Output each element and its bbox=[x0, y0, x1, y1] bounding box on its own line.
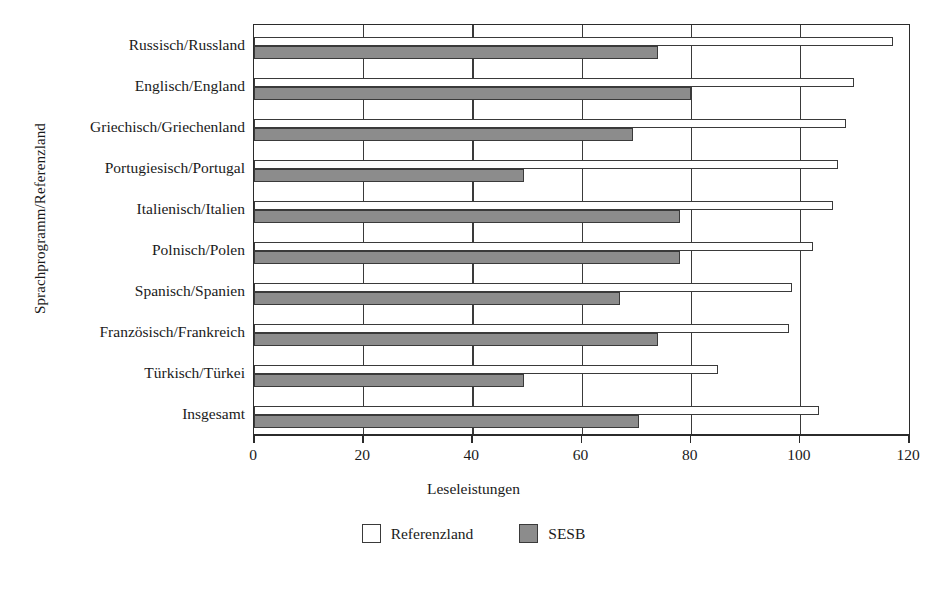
bar-sesb bbox=[254, 251, 680, 264]
chart-legend: ReferenzlandSESB bbox=[0, 524, 947, 543]
x-axis-tick-label: 100 bbox=[769, 446, 829, 464]
x-axis-tick-label: 0 bbox=[223, 446, 283, 464]
category-label: Türkisch/Türkei bbox=[30, 365, 245, 381]
legend-swatch-ref bbox=[362, 524, 381, 543]
x-axis-tick-label: 60 bbox=[551, 446, 611, 464]
legend-label: SESB bbox=[548, 525, 585, 543]
bar-referenzland bbox=[254, 160, 838, 169]
x-axis-tick bbox=[471, 434, 473, 443]
bar-referenzland bbox=[254, 365, 718, 374]
x-axis-tick bbox=[581, 434, 583, 443]
x-axis-tick bbox=[799, 434, 801, 443]
bar-referenzland bbox=[254, 406, 819, 415]
x-axis-tick-label: 120 bbox=[878, 446, 938, 464]
bar-sesb bbox=[254, 333, 658, 346]
x-axis-tick bbox=[908, 434, 910, 443]
bar-sesb bbox=[254, 169, 524, 182]
bar-sesb bbox=[254, 46, 658, 59]
legend-label: Referenzland bbox=[391, 525, 474, 543]
bar-referenzland bbox=[254, 119, 846, 128]
category-label: Polnisch/Polen bbox=[30, 242, 245, 258]
legend-item: SESB bbox=[519, 524, 585, 543]
category-label: Griechisch/Griechenland bbox=[30, 119, 245, 135]
bar-referenzland bbox=[254, 283, 792, 292]
bar-chart: Sprachprogramm/Referenzland Russisch/Rus… bbox=[0, 0, 947, 593]
bar-sesb bbox=[254, 87, 691, 100]
bar-referenzland bbox=[254, 242, 813, 251]
plot-area bbox=[253, 24, 910, 435]
bar-sesb bbox=[254, 128, 633, 141]
legend-swatch-sesb bbox=[519, 524, 538, 543]
category-label-list: Russisch/RusslandEnglisch/EnglandGriechi… bbox=[30, 24, 245, 434]
bar-referenzland bbox=[254, 78, 854, 87]
x-axis-tick bbox=[690, 434, 692, 443]
bar-referenzland bbox=[254, 201, 833, 210]
category-label: Italienisch/Italien bbox=[30, 201, 245, 217]
bar-sesb bbox=[254, 374, 524, 387]
gridline bbox=[691, 25, 692, 435]
category-label: Englisch/England bbox=[30, 78, 245, 94]
gridline bbox=[800, 25, 801, 435]
category-label: Spanisch/Spanien bbox=[30, 283, 245, 299]
x-axis-tick bbox=[362, 434, 364, 443]
x-axis-tick-label: 80 bbox=[660, 446, 720, 464]
x-axis-tick-label: 20 bbox=[332, 446, 392, 464]
bar-sesb bbox=[254, 292, 620, 305]
x-axis-title: Leseleistungen bbox=[0, 480, 947, 498]
category-label: Französisch/Frankreich bbox=[30, 324, 245, 340]
category-label: Insgesamt bbox=[30, 406, 245, 422]
bar-sesb bbox=[254, 210, 680, 223]
x-axis-tick bbox=[253, 434, 255, 443]
x-axis-tick-label: 40 bbox=[441, 446, 501, 464]
bar-referenzland bbox=[254, 324, 789, 333]
legend-item: Referenzland bbox=[362, 524, 474, 543]
bar-sesb bbox=[254, 415, 639, 428]
category-label: Portugiesisch/Portugal bbox=[30, 160, 245, 176]
category-label: Russisch/Russland bbox=[30, 37, 245, 53]
bar-referenzland bbox=[254, 37, 893, 46]
